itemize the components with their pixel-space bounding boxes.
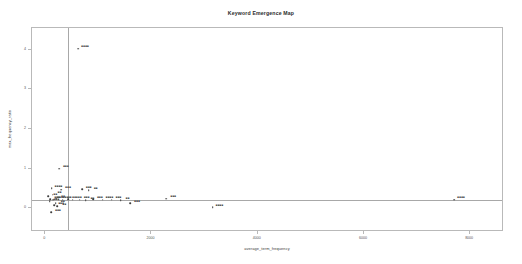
- x-axis-label: average_term_frequency: [31, 246, 503, 251]
- y-axis-label: max_frequency_ratio: [7, 110, 12, 148]
- data-point: [58, 168, 60, 170]
- x-axis-tick-label: 2000: [146, 236, 154, 240]
- data-point-label: ■■: [61, 199, 65, 203]
- data-point: [50, 211, 52, 213]
- data-point: [81, 188, 83, 190]
- data-point-label: ■■■: [84, 195, 90, 199]
- data-point: [51, 188, 53, 190]
- data-point: [88, 190, 90, 192]
- x-axis-tick-label: 0: [43, 236, 45, 240]
- y-axis-tick-label: 3: [24, 86, 26, 90]
- data-point-label: ■■■■: [55, 184, 63, 188]
- data-point: [111, 199, 113, 201]
- x-axis-tick: [363, 231, 364, 234]
- data-point: [49, 200, 51, 202]
- data-point-label: ■■■: [86, 185, 92, 189]
- data-point: [85, 199, 87, 201]
- data-point-label: ■■■: [65, 185, 71, 189]
- data-point: [72, 199, 74, 201]
- data-point-label: ■■■: [170, 194, 176, 198]
- data-point: [55, 203, 57, 205]
- data-point-label: ■■: [94, 186, 98, 190]
- data-point-label: ■■: [58, 190, 62, 194]
- x-axis-tick-label: 6000: [359, 236, 367, 240]
- y-axis-tick: [28, 168, 31, 169]
- y-axis-tick-label: 4: [24, 47, 26, 51]
- data-point: [67, 198, 69, 200]
- x-axis-tick: [469, 231, 470, 234]
- data-point: [48, 196, 50, 198]
- data-point: [54, 205, 56, 207]
- x-axis-tick: [150, 231, 151, 234]
- y-axis-tick-label: 1: [24, 166, 26, 170]
- data-point-label: ■■■■: [457, 195, 465, 199]
- data-point-label: ■■■: [55, 208, 61, 212]
- chart-figure: Keyword Emergence Map ■■■■■■■■■■■■■■■■■■…: [0, 0, 522, 264]
- data-point: [120, 199, 122, 201]
- data-point-label: ■■■: [63, 164, 69, 168]
- data-point: [77, 48, 79, 50]
- y-axis-tick-label: 0: [24, 205, 26, 209]
- data-point: [102, 199, 104, 201]
- data-point-label: ■■■■: [81, 44, 89, 48]
- data-point: [79, 199, 81, 201]
- data-point: [212, 206, 214, 208]
- data-point-label: ■■■■: [216, 203, 224, 207]
- data-point: [52, 194, 54, 196]
- y-axis-tick: [28, 207, 31, 208]
- x-axis-tick: [257, 231, 258, 234]
- x-axis-tick-label: 8000: [465, 236, 473, 240]
- data-point: [453, 199, 455, 201]
- y-axis-tick: [28, 128, 31, 129]
- page-title: Keyword Emergence Map: [0, 10, 522, 16]
- y-axis-tick-label: 2: [24, 126, 26, 130]
- y-axis-tick: [28, 88, 31, 89]
- x-axis-tick-label: 4000: [253, 236, 261, 240]
- data-point: [92, 198, 94, 200]
- plot-area: ■■■■■■■■■■■■■■■■■■■■■■■■■■■■■■■■■■■■■■■■…: [31, 27, 503, 231]
- data-point: [166, 198, 168, 200]
- data-point-label: ■■■: [134, 199, 140, 203]
- data-point: [129, 202, 131, 204]
- data-point-label: ■■: [126, 196, 130, 200]
- x-axis-tick: [44, 231, 45, 234]
- y-axis-tick: [28, 49, 31, 50]
- data-point-label: ■■■: [54, 197, 60, 201]
